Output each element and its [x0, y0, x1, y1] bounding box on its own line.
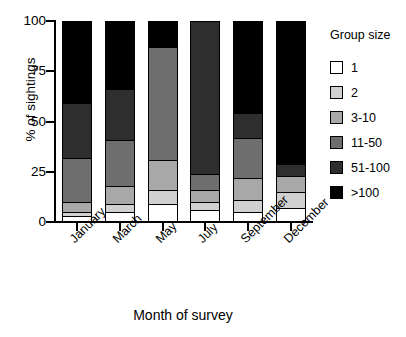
legend-item[interactable]: 1 — [330, 55, 406, 80]
legend-items: 123-1011-5051-100>100 — [330, 55, 406, 205]
legend-swatch-icon — [330, 61, 343, 74]
legend-item-label: 11-50 — [351, 136, 382, 150]
bar-segment — [149, 161, 177, 191]
legend-item-label: 1 — [351, 61, 358, 75]
bar-segment — [106, 187, 134, 205]
bar-segment — [63, 104, 91, 160]
bar-slot — [233, 21, 263, 222]
bar-segment — [277, 22, 305, 165]
legend-item[interactable]: >100 — [330, 180, 406, 205]
bar-segment — [277, 177, 305, 193]
bar-segment — [277, 165, 305, 177]
x-axis-tick-label: July — [195, 220, 221, 246]
legend-swatch-icon — [330, 161, 343, 174]
x-axis-title: Month of survey — [54, 307, 312, 323]
y-axis-tick-label: 100 — [2, 14, 46, 28]
legend-swatch-icon — [330, 111, 343, 124]
stacked-bar[interactable] — [276, 21, 306, 222]
bar-segment — [106, 205, 134, 213]
y-axis-tick-label: 25 — [2, 165, 46, 179]
legend-item[interactable]: 3-10 — [330, 105, 406, 130]
bar-segment — [191, 191, 219, 203]
bar-segment — [191, 22, 219, 175]
y-axis-tick — [46, 121, 55, 123]
stacked-bar[interactable] — [190, 21, 220, 222]
bar-segment — [234, 139, 262, 179]
bar-slot — [105, 21, 135, 222]
bar-segment — [106, 90, 134, 142]
legend-item-label: 3-10 — [351, 111, 376, 125]
legend-item-label: >100 — [351, 186, 379, 200]
y-axis-tick-label: 0 — [2, 215, 46, 229]
bar-segment — [63, 159, 91, 203]
legend-item[interactable]: 51-100 — [330, 155, 406, 180]
y-axis-tick-label: 50 — [2, 115, 46, 129]
bar-segment — [234, 114, 262, 140]
legend-item[interactable]: 11-50 — [330, 130, 406, 155]
bar-slot — [276, 21, 306, 222]
bar-segment — [191, 211, 219, 221]
legend-item-label: 2 — [351, 86, 358, 100]
legend-item[interactable]: 2 — [330, 80, 406, 105]
legend-title: Group size — [330, 28, 406, 42]
y-axis-tick-label: 75 — [2, 64, 46, 78]
legend: Group size 123-1011-5051-100>100 — [330, 28, 406, 205]
legend-swatch-icon — [330, 86, 343, 99]
chart-figure: % of sightings 0255075100 JanuaryMarchMa… — [0, 0, 406, 337]
bar-segment — [63, 22, 91, 104]
bar-segment — [149, 22, 177, 48]
stacked-bar[interactable] — [233, 21, 263, 222]
stacked-bar[interactable] — [105, 21, 135, 222]
bar-segment — [234, 22, 262, 114]
y-axis-tick-labels: 0255075100 — [0, 0, 46, 260]
bar-segment — [106, 22, 134, 90]
y-axis-tick — [46, 221, 55, 223]
bar-group — [56, 21, 312, 222]
bar-segment — [149, 48, 177, 161]
y-axis-tick — [46, 171, 55, 173]
bar-segment — [234, 179, 262, 201]
y-axis-tick — [46, 20, 55, 22]
bar-segment — [63, 203, 91, 213]
bar-slot — [148, 21, 178, 222]
bar-slot — [62, 21, 92, 222]
bar-slot — [190, 21, 220, 222]
y-axis-tick — [46, 70, 55, 72]
bar-segment — [149, 191, 177, 205]
stacked-bar[interactable] — [148, 21, 178, 222]
bar-segment — [191, 175, 219, 191]
x-axis-tick-label: May — [153, 219, 180, 246]
legend-swatch-icon — [330, 186, 343, 199]
bar-segment — [234, 201, 262, 213]
legend-swatch-icon — [330, 136, 343, 149]
legend-item-label: 51-100 — [351, 161, 390, 175]
stacked-bar[interactable] — [62, 21, 92, 222]
bar-segment — [149, 205, 177, 221]
bar-segment — [191, 203, 219, 211]
bar-segment — [106, 141, 134, 187]
